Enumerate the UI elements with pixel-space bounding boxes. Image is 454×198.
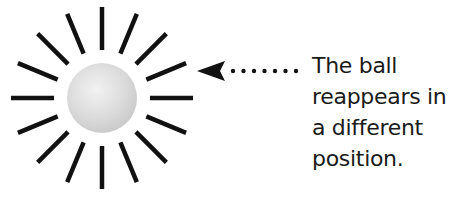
diagram: The ball reappears in a different positi… xyxy=(0,0,454,198)
caption: The ball reappears in a different positi… xyxy=(312,50,454,174)
caption-line: The ball xyxy=(312,50,454,81)
caption-line: reappears in xyxy=(312,81,454,112)
ball xyxy=(67,63,137,133)
arrow-left-icon xyxy=(197,61,298,81)
caption-line: position. xyxy=(312,143,454,174)
caption-line: a different xyxy=(312,112,454,143)
